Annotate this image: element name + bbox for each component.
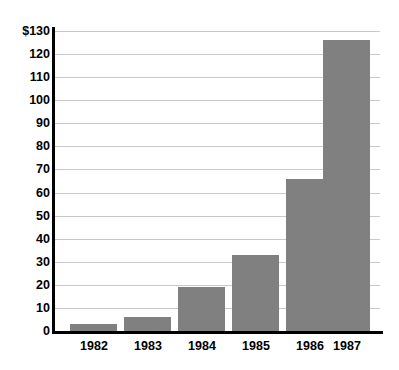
bar-chart: $130 120 110 100 90 80 70 60 50 40 30 20… <box>0 0 399 370</box>
y-tick-label: 120 <box>2 48 50 60</box>
x-axis-line <box>52 331 383 334</box>
y-tick-label: 10 <box>2 302 50 314</box>
bar-1987[interactable] <box>323 40 370 331</box>
y-tick-label: 110 <box>2 71 50 83</box>
bar-1985[interactable] <box>232 255 279 331</box>
y-axis-labels: $130 120 110 100 90 80 70 60 50 40 30 20… <box>0 0 50 370</box>
y-tick-label: $130 <box>2 25 50 37</box>
y-axis-line <box>52 27 55 333</box>
y-tick-label: 50 <box>2 210 50 222</box>
x-tick-label-1983: 1983 <box>122 339 174 353</box>
y-tick-label: 80 <box>2 140 50 152</box>
y-tick-label: 90 <box>2 117 50 129</box>
x-tick-label-1984: 1984 <box>176 339 228 353</box>
x-tick-label-1985: 1985 <box>230 339 282 353</box>
bars-layer <box>0 0 399 370</box>
y-tick-label: 30 <box>2 256 50 268</box>
y-tick-label: 40 <box>2 233 50 245</box>
bar-1983[interactable] <box>124 317 171 331</box>
y-tick-label: 60 <box>2 187 50 199</box>
y-tick-label: 20 <box>2 279 50 291</box>
bar-1982[interactable] <box>70 324 117 331</box>
x-tick-label-1987: 1987 <box>321 339 373 353</box>
y-tick-label: 100 <box>2 94 50 106</box>
bar-1984[interactable] <box>178 287 225 331</box>
x-tick-label-1982: 1982 <box>68 339 120 353</box>
y-tick-label: 70 <box>2 163 50 175</box>
y-tick-label: 0 <box>2 325 50 337</box>
